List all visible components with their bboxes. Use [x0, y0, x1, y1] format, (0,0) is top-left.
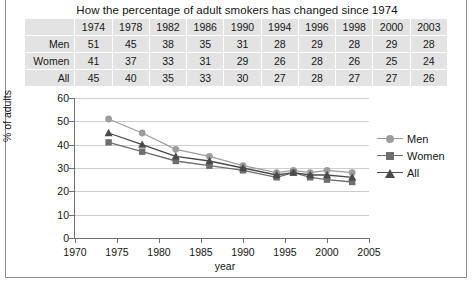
table-cell: 51 [75, 36, 111, 52]
x-axis-tick [243, 238, 244, 243]
table-cell: 28 [299, 70, 335, 86]
table-cell: 38 [150, 36, 186, 52]
legend-item-women[interactable]: Women [377, 147, 463, 164]
x-axis-tick-label: 1995 [265, 246, 305, 258]
series-line [109, 133, 353, 177]
table-body: Men51453835312829282928Women413733312926… [25, 36, 447, 86]
series-layer [75, 98, 369, 238]
table-cell: 30 [224, 70, 260, 86]
table-cell: 27 [262, 70, 298, 86]
x-axis-tick [201, 238, 202, 243]
x-axis-tick [159, 238, 160, 243]
table-cell: 26 [336, 53, 372, 69]
table-cell: 31 [187, 53, 223, 69]
table-col-header: 1978 [113, 19, 149, 35]
table-col-header: 2003 [411, 19, 447, 35]
data-point [105, 129, 113, 136]
table-cell: 26 [262, 53, 298, 69]
table-cell: 35 [187, 36, 223, 52]
x-axis-tick [75, 238, 76, 243]
data-point [139, 148, 145, 154]
x-axis-tick-label: 1975 [97, 246, 137, 258]
table-cell: 28 [336, 36, 372, 52]
line-chart: 0102030405060 19701975198019851990199520… [5, 90, 467, 278]
x-axis-tick-label: 1985 [181, 246, 221, 258]
data-table-container: 1974197819821986199019941996199820002003… [24, 18, 448, 87]
table-row-header: Women [25, 53, 74, 69]
y-axis-tick-label: 20 [29, 186, 69, 196]
table-cell: 28 [262, 36, 298, 52]
table-cell: 37 [113, 53, 149, 69]
y-axis-tick-label: 30 [29, 163, 69, 173]
table-col-header: 1990 [224, 19, 260, 35]
x-axis-line [74, 238, 370, 239]
table-cell: 33 [187, 70, 223, 86]
x-axis-tick-label: 1990 [223, 246, 263, 258]
table-col-header: 1998 [336, 19, 372, 35]
table-col-header: 1994 [262, 19, 298, 35]
legend-label: Men [403, 133, 428, 145]
table-row: Men51453835312829282928 [25, 36, 447, 52]
data-table: 1974197819821986199019941996199820002003… [24, 18, 448, 87]
data-point [172, 146, 179, 153]
table-col-header: 2000 [373, 19, 409, 35]
triangle-marker-icon [377, 166, 403, 180]
table-cell: 45 [75, 70, 111, 86]
table-cell: 27 [373, 70, 409, 86]
legend-symbol [386, 135, 394, 143]
data-point [105, 116, 112, 123]
x-axis-tick-label: 2005 [349, 246, 389, 258]
table-cell: 27 [336, 70, 372, 86]
table-cell: 29 [373, 36, 409, 52]
table-cell: 40 [113, 70, 149, 86]
legend-label: All [403, 167, 419, 179]
y-axis-title: % of adults [1, 90, 13, 142]
y-axis-tick-label: 40 [29, 140, 69, 150]
legend-item-all[interactable]: All [377, 164, 463, 181]
x-axis-tick [117, 238, 118, 243]
x-axis-tick-label: 1980 [139, 246, 179, 258]
table-col-header: 1986 [187, 19, 223, 35]
table-cell: 28 [299, 53, 335, 69]
x-axis-title: year [165, 260, 285, 272]
x-axis-tick [327, 238, 328, 243]
table-row-header: All [25, 70, 74, 86]
y-axis-tick-label: 50 [29, 116, 69, 126]
legend-label: Women [403, 150, 445, 162]
circle-marker-icon [377, 132, 403, 146]
figure-title: How the percentage of adult smokers has … [0, 3, 474, 17]
y-axis-tick-label: 10 [29, 210, 69, 220]
legend-item-men[interactable]: Men [377, 130, 463, 147]
legend-symbol [385, 169, 395, 178]
plot-area [75, 98, 369, 238]
square-marker-icon [377, 149, 403, 163]
table-header: 1974197819821986199019941996199820002003 [25, 19, 447, 35]
y-tick-label-group: 0102030405060 [15, 90, 69, 250]
table-cell: 26 [411, 70, 447, 86]
chart-legend: MenWomenAll [377, 130, 463, 181]
table-cell: 28 [411, 36, 447, 52]
table-col-header: 1974 [75, 19, 111, 35]
table-cell: 41 [75, 53, 111, 69]
table-col-header: 1982 [150, 19, 186, 35]
table-cell: 33 [150, 53, 186, 69]
x-axis-tick [285, 238, 286, 243]
table-corner-cell [25, 19, 74, 35]
table-col-header: 1996 [299, 19, 335, 35]
x-axis-tick-label: 2000 [307, 246, 347, 258]
chart-figure: How the percentage of adult smokers has … [0, 0, 474, 298]
table-row: Women41373331292628262524 [25, 53, 447, 69]
data-point [105, 139, 111, 145]
data-point [139, 130, 146, 137]
legend-symbol [386, 152, 394, 160]
table-header-row: 1974197819821986199019941996199820002003 [25, 19, 447, 35]
table-cell: 24 [411, 53, 447, 69]
table-row: All45403533302728272726 [25, 70, 447, 86]
table-cell: 35 [150, 70, 186, 86]
table-cell: 31 [224, 36, 260, 52]
table-cell: 29 [299, 36, 335, 52]
y-axis-tick-label: 0 [29, 233, 69, 243]
y-axis-tick-label: 60 [29, 93, 69, 103]
table-cell: 29 [224, 53, 260, 69]
table-cell: 45 [113, 36, 149, 52]
